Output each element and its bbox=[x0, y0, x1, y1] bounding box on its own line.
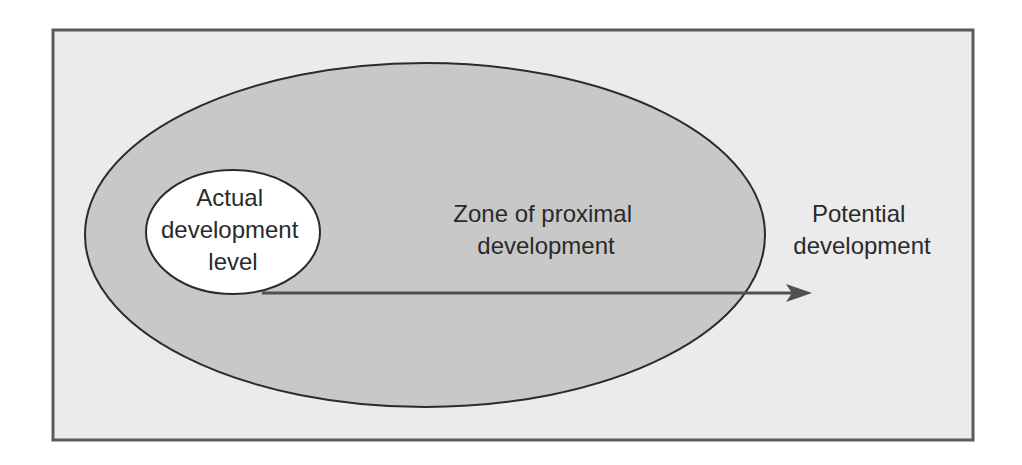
zpd-line-2: development bbox=[477, 232, 615, 259]
actual-line-2: development bbox=[161, 216, 299, 243]
potential-line-2: development bbox=[793, 232, 931, 259]
zpd-line-1: Zone of proximal bbox=[453, 200, 632, 227]
actual-line-3: level bbox=[208, 248, 257, 275]
actual-line-1: Actual bbox=[196, 184, 263, 211]
zpd-diagram: Actual development level Zone of proxima… bbox=[0, 0, 1022, 465]
potential-line-1: Potential bbox=[812, 200, 905, 227]
